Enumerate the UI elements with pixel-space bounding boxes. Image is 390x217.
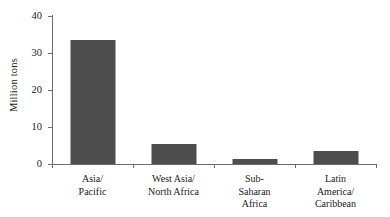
- bar-chart: Million tons 40 30 20 10 0: [0, 0, 390, 217]
- y-axis-title: Million tons: [8, 10, 22, 160]
- x-label-latin-america-caribbean: Latin America/ Caribbean: [295, 173, 376, 211]
- y-tick-label-0: 0: [37, 157, 42, 170]
- bar-slot-1: [133, 15, 214, 164]
- bar-slot-0: [52, 15, 133, 164]
- bar-latin-america-caribbean[interactable]: [313, 151, 358, 164]
- bar-slot-3: [295, 15, 376, 164]
- y-tick-label-30: 30: [32, 46, 43, 59]
- plot-area: 40 30 20 10 0: [52, 15, 377, 165]
- y-tick-label-10: 10: [32, 120, 43, 133]
- bar-west-asia-north-africa[interactable]: [151, 144, 196, 164]
- x-label-sub-saharan-africa: Sub- Saharan Africa: [214, 173, 295, 211]
- x-label-asia-pacific: Asia/ Pacific: [52, 173, 133, 198]
- x-label-west-asia-north-africa: West Asia/ North Africa: [133, 173, 214, 198]
- bar-sub-saharan-africa[interactable]: [232, 159, 277, 164]
- bar-asia-pacific[interactable]: [70, 40, 115, 164]
- bars-layer: [52, 15, 377, 165]
- y-tick-label-40: 40: [32, 9, 43, 22]
- bar-slot-2: [214, 15, 295, 164]
- y-tick-label-20: 20: [32, 83, 43, 96]
